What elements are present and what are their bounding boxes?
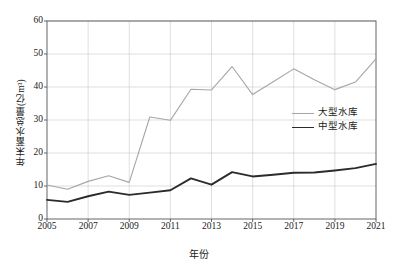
chart-legend: 大型水库 中型水库 <box>292 106 358 134</box>
x-tick-label: 2013 <box>192 222 232 232</box>
chart-container: 年末蓄水总量(亿m³) 0102030405060 20052007200920… <box>0 0 398 270</box>
legend-item-medium-reservoir[interactable]: 中型水库 <box>292 120 358 134</box>
y-tick-label: 40 <box>22 82 43 92</box>
legend-label-medium-reservoir: 中型水库 <box>318 122 358 132</box>
y-tick-label: 50 <box>22 49 43 59</box>
x-tick-label: 2017 <box>274 222 314 232</box>
x-tick-label: 2005 <box>27 222 67 232</box>
x-axis-title: 年份 <box>0 246 398 261</box>
legend-label-large-reservoir: 大型水库 <box>318 108 358 118</box>
y-tick-label: 20 <box>22 148 43 158</box>
y-tick-label: 10 <box>22 181 43 191</box>
y-tick-label: 30 <box>22 115 43 125</box>
x-tick-label: 2011 <box>150 222 190 232</box>
legend-swatch-medium-reservoir <box>292 127 314 128</box>
legend-swatch-large-reservoir <box>292 113 314 114</box>
x-tick-label: 2019 <box>315 222 355 232</box>
legend-item-large-reservoir[interactable]: 大型水库 <box>292 106 358 120</box>
x-tick-label: 2015 <box>233 222 273 232</box>
y-tick-label: 60 <box>22 16 43 26</box>
x-tick-label: 2007 <box>68 222 108 232</box>
x-tick-label: 2021 <box>356 222 396 232</box>
x-tick-label: 2009 <box>109 222 149 232</box>
